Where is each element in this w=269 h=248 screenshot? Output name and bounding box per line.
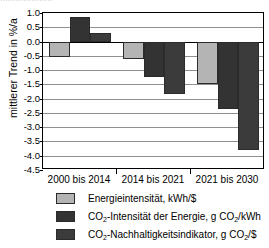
bar-series-container <box>43 13 263 168</box>
y-tick-label: -4.5 <box>24 165 40 174</box>
y-tick-label: -1.5 <box>24 79 40 88</box>
x-category-label: 2014 bis 2021 <box>116 174 190 185</box>
bar-group <box>43 13 117 168</box>
x-tick-mark <box>190 169 191 174</box>
bar <box>197 42 218 85</box>
bar <box>238 42 259 150</box>
x-category-label: 2021 bis 2030 <box>190 174 264 185</box>
legend-swatch <box>56 229 75 240</box>
legend-label: CO2-Intensität der Energie, g CO2/kWh <box>88 210 261 226</box>
legend-item[interactable]: CO2-Intensität der Energie, g CO2/kWh <box>0 208 269 226</box>
bar <box>49 42 70 58</box>
y-tick-label: 1.0 <box>27 8 40 17</box>
x-tick-mark <box>116 169 117 174</box>
legend-item[interactable]: CO2-Nachhaltigkeitsindikator, g CO2/$ <box>0 226 269 244</box>
bar <box>164 42 185 95</box>
y-tick-label: -4.0 <box>24 150 40 159</box>
plot-area-wrapper: mittlerer Trend in %/a 1.00.50.0-0.5-1.0… <box>0 6 269 171</box>
legend-item[interactable]: Energieintensität, kWh/$ <box>0 190 269 208</box>
y-tick-label: -2.5 <box>24 107 40 116</box>
y-axis-tick-labels: 1.00.50.0-0.5-1.0-1.5-2.0-2.5-3.0-3.5-4.… <box>16 6 40 169</box>
chart-legend: Energieintensität, kWh/$CO2-Intensität d… <box>0 190 269 244</box>
x-axis-category-labels: 2000 bis 20142014 bis 20212021 bis 2030 <box>42 174 264 190</box>
y-tick-mark <box>40 170 43 171</box>
bar <box>123 42 144 60</box>
bar <box>144 42 165 78</box>
plot-area <box>42 12 264 169</box>
legend-label: CO2-Nachhaltigkeitsindikator, g CO2/$ <box>88 228 256 244</box>
bar-group <box>191 13 265 168</box>
y-tick-label: -3.0 <box>24 122 40 131</box>
legend-label: Energieintensität, kWh/$ <box>88 192 196 205</box>
bar-group <box>117 13 191 168</box>
legend-swatch <box>56 193 75 204</box>
y-tick-label: -0.5 <box>24 50 40 59</box>
y-tick-label: -2.0 <box>24 93 40 102</box>
y-tick-label: 0.0 <box>27 36 40 45</box>
legend-swatch <box>56 211 75 222</box>
x-category-label: 2000 bis 2014 <box>42 174 116 185</box>
y-tick-label: 0.5 <box>27 22 40 31</box>
bar <box>90 33 111 41</box>
bar <box>218 42 239 110</box>
y-tick-label: -3.5 <box>24 136 40 145</box>
y-tick-label: -1.0 <box>24 65 40 74</box>
bar <box>70 17 91 42</box>
bar-chart-figure: .................... mittlerer Trend in … <box>0 0 269 248</box>
